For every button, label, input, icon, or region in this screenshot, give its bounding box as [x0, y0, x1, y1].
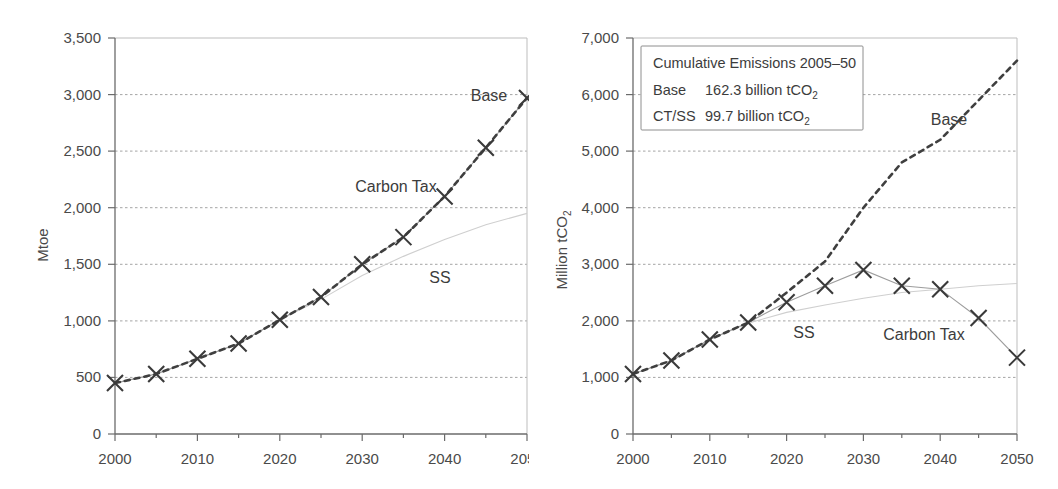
y-tick-label: 2,000: [63, 199, 101, 216]
x-tick-label: 2000: [616, 450, 649, 467]
left-series-carbon-tax: [115, 98, 527, 383]
x-tick-label: 2000: [98, 450, 131, 467]
right-y-axis-title-sub: 2: [562, 210, 573, 216]
y-tick-label: 3,500: [63, 29, 101, 46]
data-point-marker: [663, 352, 679, 368]
left-annotation-carbon-tax: Carbon Tax: [355, 178, 437, 195]
data-point-marker: [189, 351, 205, 367]
left-chart-svg: 3,500 3,000 2,500 2,000 1,500 1,000 500 …: [0, 0, 529, 489]
right-x-tick-labels: 2000 2010 2020 2030 2040 2050: [616, 450, 1033, 467]
y-tick-label: 2,000: [581, 312, 619, 329]
x-tick-label: 2010: [693, 450, 726, 467]
left-annotation-base: Base: [471, 87, 508, 104]
x-tick-label: 2030: [346, 450, 379, 467]
y-tick-label: 1,000: [581, 368, 619, 385]
x-tick-label: 2050: [1000, 450, 1033, 467]
legend-row2-label: CT/SS: [653, 108, 696, 124]
legend-row1-value-sub: 2: [812, 90, 818, 101]
x-tick-label: 2040: [924, 450, 957, 467]
right-chart-svg: 7,000 6,000 5,000 4,000 3,000 2,000 1,00…: [529, 0, 1058, 489]
right-annotation-carbon-tax: Carbon Tax: [883, 326, 965, 343]
y-tick-label: 3,000: [63, 86, 101, 103]
x-tick-label: 2020: [770, 450, 803, 467]
y-tick-label: 500: [76, 368, 101, 385]
right-y-tick-labels: 7,000 6,000 5,000 4,000 3,000 2,000 1,00…: [581, 29, 619, 442]
data-point-marker: [817, 278, 833, 294]
right-series-markers: [625, 262, 1025, 382]
svg-text:Million tCO2: Million tCO2: [553, 210, 573, 289]
left-annotation-ss: SS: [429, 269, 450, 286]
y-tick-label: 4,000: [581, 199, 619, 216]
right-annotation-base: Base: [931, 111, 968, 128]
left-y-tick-labels: 3,500 3,000 2,500 2,000 1,500 1,000 500 …: [63, 29, 101, 442]
data-point-marker: [971, 310, 987, 326]
left-x-tick-labels: 2000 2010 2020 2030 2040 2050: [98, 450, 529, 467]
data-point-marker: [313, 289, 329, 305]
data-point-marker: [478, 140, 494, 156]
left-y-ticks: [108, 38, 115, 434]
left-series-markers: [107, 90, 529, 391]
y-tick-label: 3,000: [581, 255, 619, 272]
y-tick-label: 7,000: [581, 29, 619, 46]
data-point-marker: [148, 366, 164, 382]
x-tick-label: 2020: [263, 450, 296, 467]
y-tick-label: 0: [93, 425, 101, 442]
right-annotation-ss: SS: [793, 324, 814, 341]
y-tick-label: 6,000: [581, 86, 619, 103]
y-tick-label: 1,500: [63, 255, 101, 272]
x-tick-label: 2050: [510, 450, 529, 467]
left-series-base: [115, 98, 527, 383]
left-x-ticks: [115, 434, 527, 441]
left-axes: [115, 38, 527, 434]
legend-row2-value-sub: 2: [804, 116, 810, 127]
legend-row2-value-main: 99.7 billion tCO: [705, 108, 804, 124]
y-tick-label: 5,000: [581, 142, 619, 159]
x-tick-label: 2040: [428, 450, 461, 467]
left-plot-frame: [115, 38, 527, 434]
chart-panel-right: 7,000 6,000 5,000 4,000 3,000 2,000 1,00…: [529, 0, 1058, 489]
data-point-marker: [702, 332, 718, 348]
y-tick-label: 0: [611, 425, 619, 442]
data-point-marker: [272, 312, 288, 328]
figure-root: 3,500 3,000 2,500 2,000 1,500 1,000 500 …: [0, 0, 1058, 489]
right-y-axis-title-main: Million tCO: [553, 216, 570, 289]
x-tick-label: 2010: [181, 450, 214, 467]
data-point-marker: [437, 188, 453, 204]
chart-panel-left: 3,500 3,000 2,500 2,000 1,500 1,000 500 …: [0, 0, 529, 489]
right-x-ticks: [633, 434, 1017, 441]
left-y-axis-title: Mtoe: [34, 228, 51, 261]
data-point-marker: [231, 335, 247, 351]
y-tick-label: 2,500: [63, 142, 101, 159]
data-point-marker: [740, 315, 756, 331]
legend-title: Cumulative Emissions 2005–50: [653, 55, 856, 71]
legend-row1-value-main: 162.3 billion tCO: [705, 82, 812, 98]
right-y-axis-title: Million tCO2: [553, 210, 573, 289]
right-legend-box: Cumulative Emissions 2005–50 Base 162.3 …: [641, 46, 863, 130]
left-gridlines: [115, 95, 527, 378]
data-point-marker: [395, 229, 411, 245]
x-tick-label: 2030: [847, 450, 880, 467]
data-point-marker: [779, 294, 795, 310]
legend-row1-label: Base: [653, 82, 686, 98]
y-tick-label: 1,000: [63, 312, 101, 329]
